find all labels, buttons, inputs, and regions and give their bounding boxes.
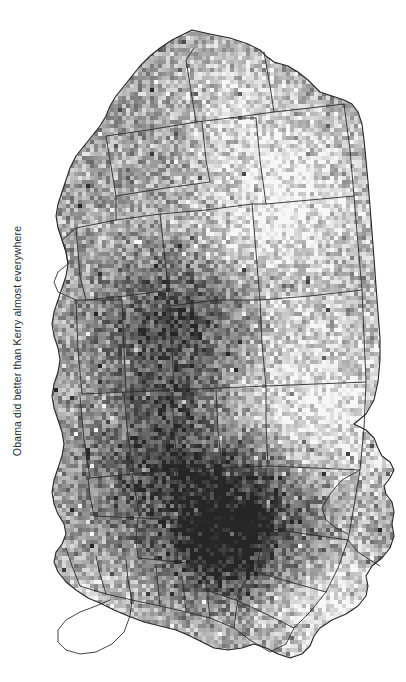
choropleth-map xyxy=(30,0,406,682)
figure-caption: Obama did better than Kerry almost every… xyxy=(12,226,23,456)
caption-container: Obama did better than Kerry almost every… xyxy=(0,0,34,682)
figure-root: Obama did better than Kerry almost every… xyxy=(0,0,406,682)
map-svg xyxy=(30,0,406,682)
